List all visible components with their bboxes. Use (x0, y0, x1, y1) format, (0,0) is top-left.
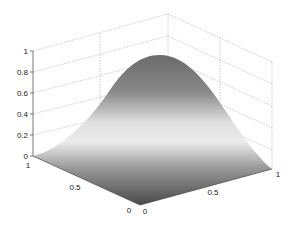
x-tick-label: 0.5 (207, 188, 219, 197)
z-axis: 1 0.8 0.6 0.4 0.2 0 (17, 47, 33, 161)
x-tick-label: 1 (276, 170, 281, 179)
y-tick-label: 0 (127, 206, 132, 215)
z-tick-label: 0.2 (17, 131, 29, 140)
z-tick-label: 0.8 (17, 68, 29, 77)
z-tick-label: 0.6 (17, 89, 29, 98)
surface-plot: 1 0.8 0.6 0.4 0.2 0 1 0.5 0 0 0.5 1 (0, 0, 291, 226)
y-tick-label: 1 (26, 161, 31, 170)
z-tick-label: 0 (24, 152, 29, 161)
z-tick-label: 1 (24, 47, 29, 56)
y-tick-label: 0.5 (69, 183, 81, 192)
x-tick-label: 0 (143, 207, 148, 216)
z-tick-label: 0.4 (17, 110, 29, 119)
